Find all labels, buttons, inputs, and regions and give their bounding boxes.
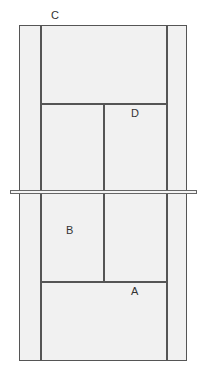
label-b: B xyxy=(66,224,73,236)
label-a: A xyxy=(131,285,138,297)
label-d: D xyxy=(131,107,139,119)
net xyxy=(10,190,197,194)
label-c: C xyxy=(51,9,59,21)
